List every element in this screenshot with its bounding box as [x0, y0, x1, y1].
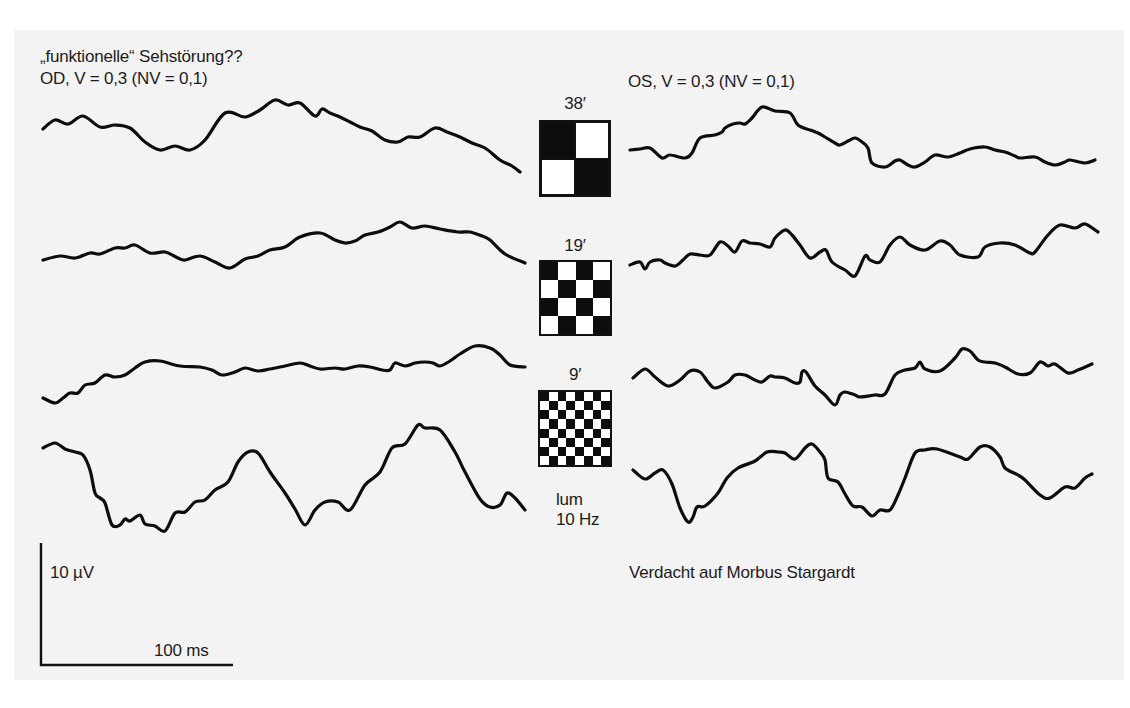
checker-cell — [541, 262, 558, 280]
checker-cell — [540, 429, 549, 438]
scale-label-time: 100 ms — [154, 641, 209, 661]
os-header: OS, V = 0,3 (NV = 0,1) — [628, 72, 795, 92]
checker-cell — [549, 401, 558, 410]
checker-cell — [566, 392, 575, 401]
checker-cell — [566, 401, 575, 410]
stimulus-label-lum: lum — [556, 490, 583, 510]
checker-cell — [576, 280, 593, 298]
checker-cell — [540, 410, 549, 419]
checker-cell — [575, 419, 584, 428]
checker-cell — [566, 419, 575, 428]
checker-cell — [593, 456, 602, 465]
checker-cell — [576, 298, 593, 316]
checker-cell — [584, 438, 593, 447]
checker-cell — [558, 392, 567, 401]
vep-trace — [630, 107, 1095, 167]
checker-cell — [549, 456, 558, 465]
checker-cell — [584, 392, 593, 401]
checker-cell — [540, 392, 549, 401]
checker-cell — [558, 447, 567, 456]
checker-cell — [593, 419, 602, 428]
vep-trace — [633, 444, 1092, 522]
checker-cell — [540, 447, 549, 456]
checker-cell — [558, 280, 575, 298]
vep-trace — [630, 224, 1098, 277]
stimulus-label-38: 38′ — [564, 94, 586, 114]
checker-cell — [541, 298, 558, 316]
checker-cell — [540, 401, 549, 410]
checker-cell — [558, 419, 567, 428]
checkerboard-19-icon — [539, 260, 612, 336]
checker-cell — [601, 419, 610, 428]
vep-trace — [633, 349, 1092, 405]
vep-trace — [43, 346, 525, 403]
checker-cell — [593, 401, 602, 410]
figure-title: „funktionelle“ Sehstörung?? — [40, 47, 243, 67]
checker-cell — [558, 456, 567, 465]
checker-cell — [601, 401, 610, 410]
checker-cell — [549, 392, 558, 401]
checker-cell — [593, 447, 602, 456]
vep-trace — [43, 222, 525, 268]
checker-cell — [540, 419, 549, 428]
checker-cell — [541, 159, 575, 196]
checker-cell — [601, 438, 610, 447]
checker-cell — [558, 410, 567, 419]
diagnosis-text: Verdacht auf Morbus Stargardt — [629, 563, 855, 583]
checker-cell — [584, 456, 593, 465]
checker-cell — [558, 298, 575, 316]
checker-cell — [566, 410, 575, 419]
checker-cell — [575, 392, 584, 401]
checker-cell — [558, 401, 567, 410]
checker-cell — [558, 429, 567, 438]
checkerboard-9-icon — [538, 390, 612, 467]
checker-cell — [593, 298, 610, 316]
checker-cell — [558, 316, 575, 334]
checker-cell — [593, 438, 602, 447]
checker-cell — [593, 392, 602, 401]
checker-cell — [601, 392, 610, 401]
scale-label-amplitude: 10 µV — [50, 563, 94, 583]
od-header: OD, V = 0,3 (NV = 0,1) — [40, 69, 208, 89]
checker-cell — [601, 447, 610, 456]
checker-cell — [601, 410, 610, 419]
checker-cell — [584, 419, 593, 428]
checker-cell — [584, 447, 593, 456]
checker-cell — [601, 456, 610, 465]
stimulus-label-19: 19′ — [564, 236, 586, 256]
checker-cell — [549, 438, 558, 447]
checker-cell — [549, 429, 558, 438]
checker-cell — [593, 429, 602, 438]
checker-cell — [566, 429, 575, 438]
checker-cell — [566, 438, 575, 447]
checker-cell — [549, 447, 558, 456]
checker-cell — [584, 410, 593, 419]
checker-cell — [575, 122, 609, 159]
checker-cell — [566, 447, 575, 456]
checkerboard-38-icon — [539, 120, 611, 197]
vep-trace — [43, 100, 520, 172]
checker-cell — [541, 316, 558, 334]
checker-cell — [540, 438, 549, 447]
checker-cell — [575, 159, 609, 196]
checker-cell — [549, 419, 558, 428]
checker-cell — [575, 429, 584, 438]
checker-cell — [566, 456, 575, 465]
checker-cell — [558, 262, 575, 280]
checker-cell — [593, 280, 610, 298]
checker-cell — [541, 280, 558, 298]
checker-cell — [584, 429, 593, 438]
checker-cell — [576, 262, 593, 280]
checker-cell — [575, 401, 584, 410]
checker-cell — [593, 262, 610, 280]
checker-cell — [540, 456, 549, 465]
checker-cell — [558, 438, 567, 447]
checker-cell — [576, 316, 593, 334]
checker-cell — [549, 410, 558, 419]
checker-cell — [575, 438, 584, 447]
checker-cell — [593, 410, 602, 419]
checker-cell — [584, 401, 593, 410]
checker-cell — [575, 447, 584, 456]
checker-cell — [575, 456, 584, 465]
stimulus-label-9: 9′ — [569, 365, 581, 385]
